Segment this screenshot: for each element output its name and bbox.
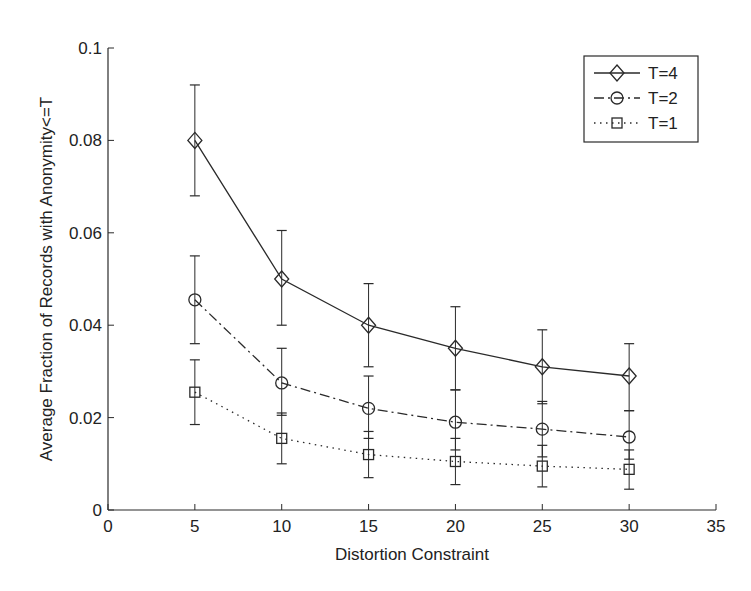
series-t-2 bbox=[189, 256, 635, 459]
legend-box bbox=[584, 56, 698, 142]
y-tick-label: 0.04 bbox=[69, 316, 102, 335]
x-tick-label: 20 bbox=[446, 517, 465, 536]
legend-label: T=4 bbox=[648, 64, 678, 83]
data-series bbox=[188, 85, 636, 489]
chart-canvas: 0510152025303500.020.040.060.080.1 T=4T=… bbox=[0, 0, 751, 591]
x-tick-label: 15 bbox=[359, 517, 378, 536]
y-tick-label: 0.1 bbox=[78, 39, 102, 58]
legend-label: T=2 bbox=[648, 89, 678, 108]
x-tick-label: 0 bbox=[103, 517, 112, 536]
y-tick-label: 0 bbox=[93, 501, 102, 520]
y-tick-label: 0.08 bbox=[69, 131, 102, 150]
y-tick-label: 0.06 bbox=[69, 224, 102, 243]
series-t-1 bbox=[190, 360, 634, 489]
x-tick-label: 5 bbox=[190, 517, 199, 536]
legend: T=4T=2T=1 bbox=[584, 56, 698, 142]
series-line bbox=[195, 300, 629, 437]
x-tick-label: 10 bbox=[272, 517, 291, 536]
series-t-4 bbox=[188, 85, 636, 411]
y-axis-label: Average Fraction of Records with Anonymi… bbox=[37, 97, 56, 461]
x-tick-label: 30 bbox=[620, 517, 639, 536]
y-tick-label: 0.02 bbox=[69, 409, 102, 428]
x-tick-label: 25 bbox=[533, 517, 552, 536]
x-tick-label: 35 bbox=[707, 517, 726, 536]
series-line bbox=[195, 140, 629, 376]
x-axis-label: Distortion Constraint bbox=[335, 545, 489, 564]
legend-label: T=1 bbox=[648, 114, 678, 133]
